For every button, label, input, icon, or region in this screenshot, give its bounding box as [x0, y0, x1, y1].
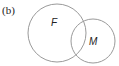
- set-f-circle: [28, 4, 86, 62]
- venn-diagram: [0, 0, 119, 66]
- set-m-label: M: [89, 36, 97, 47]
- set-f-label: F: [51, 17, 57, 28]
